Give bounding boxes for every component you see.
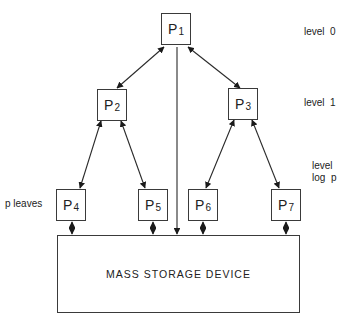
mass-storage-device: MASS STORAGE DEVICE xyxy=(57,235,300,313)
level-log-p-label-line1: level xyxy=(312,160,333,172)
node-p2-sub: 2 xyxy=(114,102,120,113)
edge-p2-p5 xyxy=(121,121,145,188)
node-p4: P4 xyxy=(56,189,86,221)
level-0-label: level 0 xyxy=(304,26,336,38)
node-p3-sub: 3 xyxy=(245,101,251,112)
node-p4-letter: P xyxy=(63,197,72,213)
node-p1: P1 xyxy=(161,13,191,45)
node-p2-letter: P xyxy=(104,97,113,113)
node-p5-letter: P xyxy=(145,197,154,213)
edge-p1-p2 xyxy=(117,47,164,88)
node-p3: P3 xyxy=(228,88,258,120)
node-p6-sub: 6 xyxy=(205,202,211,213)
node-p1-letter: P xyxy=(168,21,177,37)
node-p5-sub: 5 xyxy=(155,202,161,213)
node-p5: P5 xyxy=(138,189,168,221)
node-p6-letter: P xyxy=(195,197,204,213)
edge-p3-p6 xyxy=(206,120,234,188)
edge-p1-p3 xyxy=(188,47,240,88)
node-p3-letter: P xyxy=(235,96,244,112)
level-log-p-label-line2: log p xyxy=(312,172,336,184)
node-p4-sub: 4 xyxy=(73,202,79,213)
storage-label: MASS STORAGE DEVICE xyxy=(106,268,251,280)
level-1-label: level 1 xyxy=(304,97,336,109)
node-p6: P6 xyxy=(188,189,218,221)
node-p1-sub: 1 xyxy=(178,26,184,37)
p-leaves-label: p leaves xyxy=(5,198,42,210)
node-p7: P7 xyxy=(271,189,301,221)
edge-p2-p4 xyxy=(80,121,101,188)
node-p7-letter: P xyxy=(278,197,287,213)
node-p7-sub: 7 xyxy=(288,202,294,213)
node-p2: P2 xyxy=(97,89,127,121)
edge-p3-p7 xyxy=(252,120,279,188)
